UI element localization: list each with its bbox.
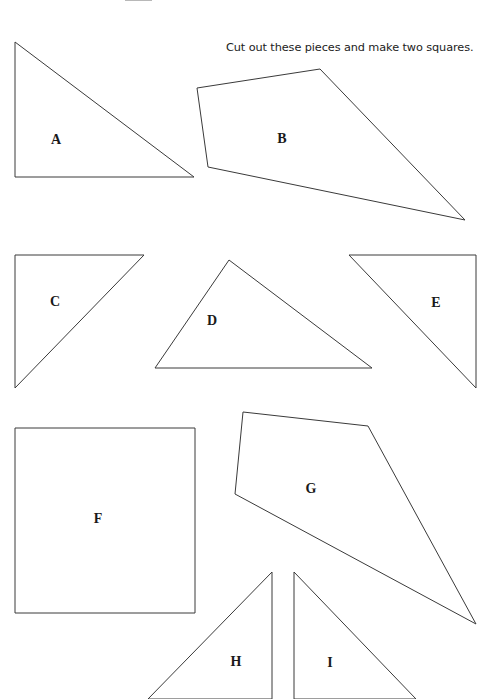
piece-d-triangle <box>155 260 372 368</box>
piece-f-label: F <box>94 512 103 526</box>
piece-i-label: I <box>327 656 332 670</box>
piece-b-label: B <box>277 132 286 146</box>
pieces-canvas <box>0 0 486 699</box>
piece-g-label: G <box>306 482 317 496</box>
piece-d-label: D <box>207 314 217 328</box>
piece-a-label: A <box>51 133 61 147</box>
piece-c-label: C <box>50 295 60 309</box>
piece-h-label: H <box>231 655 242 669</box>
piece-a-triangle <box>15 42 194 177</box>
piece-b-quadrilateral <box>197 69 465 220</box>
piece-c-triangle <box>15 255 144 388</box>
worksheet-page: Cut out these pieces and make two square… <box>0 0 486 699</box>
piece-e-label: E <box>431 296 440 310</box>
piece-i-triangle <box>294 572 416 699</box>
piece-f-square <box>15 428 195 613</box>
